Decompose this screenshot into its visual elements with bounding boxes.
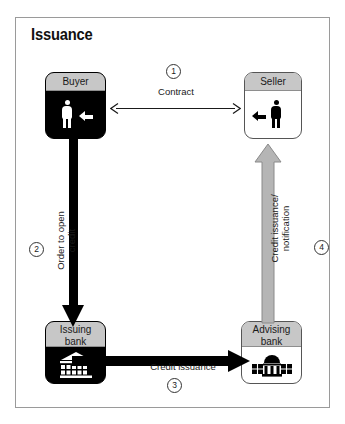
flow-label-order-to-open-credit: Order to open credit — [56, 189, 77, 293]
node-advising-bank[interactable]: Advising bank — [241, 321, 302, 384]
flow-label-credit-issuance-notification: Credit issuance/ notification — [270, 177, 291, 281]
diagram-title: Issuance — [31, 26, 93, 44]
arrow-left-icon — [252, 111, 266, 122]
node-advising-bank-label-line1: Advising — [242, 324, 301, 336]
flow-label-notif-line2: notification — [280, 177, 291, 281]
node-seller-label: Seller — [245, 73, 301, 91]
node-buyer[interactable]: Buyer — [45, 72, 106, 139]
flow-label-notif-line1: Credit issuance/ — [270, 177, 281, 281]
flow-label-order-line2: credit — [66, 189, 77, 293]
bank-building-icon — [251, 350, 293, 378]
person-icon — [271, 100, 281, 128]
flow-label-order-line1: Order to open — [56, 189, 67, 293]
step-number-3: 3 — [167, 378, 182, 393]
step-number-1: 1 — [166, 64, 181, 79]
node-seller[interactable]: Seller — [244, 72, 302, 139]
arrowhead-right-icon — [232, 103, 241, 114]
arrowhead-left-icon — [110, 103, 119, 114]
node-buyer-label: Buyer — [46, 73, 105, 91]
step-number-2: 2 — [29, 242, 44, 257]
step-number-4: 4 — [314, 240, 329, 255]
arrow-contract — [110, 103, 241, 114]
arrow-left-icon — [79, 111, 93, 122]
flow-label-credit-issuance: Credit issuance — [138, 361, 228, 372]
person-icon — [62, 100, 72, 128]
flow-label-contract: Contract — [141, 86, 211, 97]
node-seller-body — [245, 91, 301, 139]
node-advising-bank-label-line2: bank — [242, 336, 301, 348]
node-issuing-bank-label-line2: bank — [46, 336, 105, 348]
node-advising-bank-label: Advising bank — [242, 322, 301, 347]
node-advising-bank-body — [242, 347, 301, 383]
